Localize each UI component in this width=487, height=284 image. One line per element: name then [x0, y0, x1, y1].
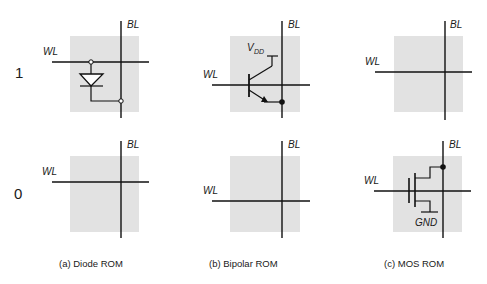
- bit-line-label: BL: [449, 139, 461, 150]
- bit-line-label: BL: [288, 19, 300, 30]
- row-label-0: 0: [14, 185, 22, 202]
- word-line-label: WL: [203, 185, 218, 196]
- bipolar-rom-cell-1: BL WL V DD: [203, 19, 310, 118]
- word-line-label: WL: [364, 175, 379, 186]
- bit-line-label: BL: [127, 139, 139, 150]
- word-line-label: WL: [365, 56, 380, 67]
- mos-rom-cell-0: BL WL GND: [364, 139, 471, 238]
- caption-bipolar-rom: (b) Bipolar ROM: [209, 258, 278, 269]
- cell-background: [230, 156, 300, 232]
- svg-text:DD: DD: [254, 48, 264, 55]
- bit-line-label: BL: [127, 19, 139, 30]
- bipolar-rom-cell-0: BL WL: [203, 139, 310, 238]
- bit-line-label: BL: [288, 139, 300, 150]
- caption-mos-rom: (c) MOS ROM: [384, 258, 444, 269]
- cell-background: [70, 156, 139, 232]
- diode-rom-cell-1: BL WL: [43, 19, 149, 118]
- cell-background: [394, 36, 463, 112]
- row-label-1: 1: [15, 64, 23, 81]
- caption-diode-rom: (a) Diode ROM: [59, 258, 123, 269]
- word-line-label: WL: [203, 69, 218, 80]
- rom-cell-diagram: 1 0 BL WL BL WL BL WL V DD: [0, 0, 487, 284]
- word-line-label: WL: [42, 166, 57, 177]
- word-line-label: WL: [43, 46, 58, 57]
- bit-line-label: BL: [450, 19, 462, 30]
- gnd-label: GND: [415, 217, 437, 228]
- diode-rom-cell-0: BL WL: [42, 139, 149, 238]
- mos-rom-cell-1: BL WL: [365, 19, 472, 120]
